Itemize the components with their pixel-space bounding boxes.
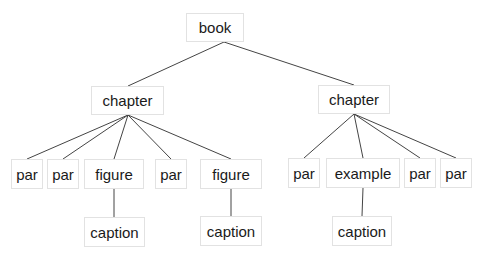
node-par2: par — [47, 159, 79, 189]
edge-chapter1-par3 — [128, 115, 171, 159]
edge-chapter2-par6 — [354, 114, 456, 158]
node-label: par — [52, 166, 74, 183]
node-par4: par — [288, 158, 320, 188]
node-par5: par — [404, 158, 436, 188]
node-label: figure — [95, 166, 133, 183]
node-caption3: caption — [332, 216, 392, 246]
node-chapter2: chapter — [318, 85, 390, 114]
node-chapter1: chapter — [91, 86, 164, 115]
node-label: caption — [338, 223, 386, 240]
node-par6: par — [440, 158, 472, 188]
node-label: caption — [207, 223, 255, 240]
node-label: par — [293, 165, 315, 182]
edge-chapter1-par2 — [63, 115, 128, 159]
edge-book-chapter1 — [128, 42, 224, 86]
edge-chapter1-figure2 — [128, 115, 231, 159]
node-label: par — [445, 165, 467, 182]
node-label: par — [409, 165, 431, 182]
node-label: book — [199, 19, 232, 36]
node-caption1: caption — [84, 217, 145, 247]
edge-chapter2-par4 — [304, 114, 354, 158]
node-example: example — [326, 158, 400, 188]
document-structure-tree: bookchapterchapterparparfigureparfigurep… — [0, 0, 484, 257]
edge-chapter1-figure1 — [114, 115, 128, 159]
node-par1: par — [11, 159, 43, 189]
node-book: book — [186, 13, 244, 42]
node-label: chapter — [102, 92, 152, 109]
node-label: example — [335, 165, 392, 182]
node-par3: par — [155, 159, 187, 189]
node-label: par — [16, 166, 38, 183]
edge-chapter1-par1 — [27, 115, 128, 159]
node-figure1: figure — [84, 159, 144, 189]
edge-chapter2-example — [354, 114, 363, 158]
node-label: chapter — [329, 91, 379, 108]
node-label: caption — [90, 224, 138, 241]
node-label: par — [160, 166, 182, 183]
node-caption2: caption — [200, 216, 262, 246]
node-label: figure — [212, 166, 250, 183]
edge-chapter2-par5 — [354, 114, 420, 158]
edge-example-caption3 — [362, 188, 363, 216]
node-figure2: figure — [200, 159, 262, 189]
edge-book-chapter2 — [224, 42, 354, 85]
